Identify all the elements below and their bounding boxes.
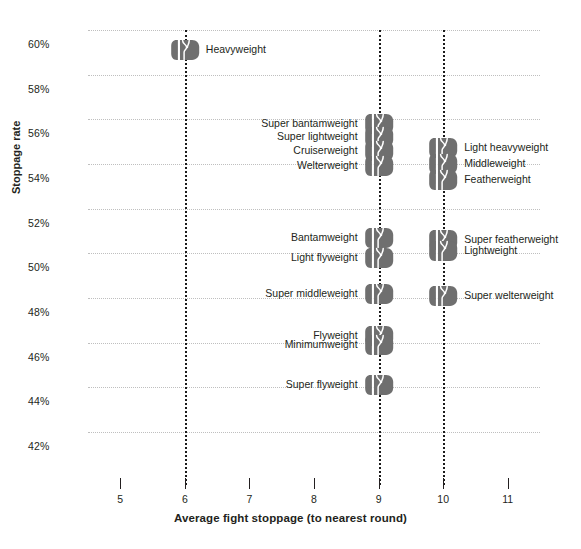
data-point-label: Lightweight xyxy=(464,244,517,257)
x-axis-tick xyxy=(508,478,509,489)
plot-area: HeavyweightSuper bantamweightSuper light… xyxy=(88,30,540,432)
x-axis-title: Average fight stoppage (to nearest round… xyxy=(0,512,581,524)
boxing-glove-icon xyxy=(168,38,202,62)
x-axis-tick xyxy=(443,478,444,489)
y-axis-tick-labels: 60%58%56%54%52%50%48%46%44%42% xyxy=(44,30,88,432)
data-point-label: Super flyweight xyxy=(286,378,358,391)
boxing-glove-icon xyxy=(362,246,396,270)
y-axis-tick-label: 56% xyxy=(28,127,88,139)
data-point-label: Heavyweight xyxy=(206,43,266,56)
gridline xyxy=(88,30,540,31)
y-axis-tick-label: 50% xyxy=(28,261,88,273)
y-axis-tick-label: 54% xyxy=(28,172,88,184)
data-point-label: Super lightweight xyxy=(277,130,358,143)
data-point-label: Light heavyweight xyxy=(464,141,548,154)
boxing-glove-icon xyxy=(362,282,396,306)
scatter-chart: Stoppage rate 60%58%56%54%52%50%48%46%44… xyxy=(0,0,581,549)
data-point-label: Super welterweight xyxy=(464,289,553,302)
data-point-label: Light flyweight xyxy=(291,251,358,264)
gridline xyxy=(88,432,540,433)
boxing-glove-icon xyxy=(426,168,460,192)
x-axis-tick xyxy=(185,478,186,489)
x-axis-tick-label: 11 xyxy=(488,493,528,505)
data-point-label: Super middleweight xyxy=(265,287,357,300)
y-axis-tick-label: 52% xyxy=(28,217,88,229)
x-axis-tick-label: 10 xyxy=(423,493,463,505)
boxing-glove-icon xyxy=(426,239,460,263)
x-axis-tick-label: 8 xyxy=(294,493,334,505)
data-point-label: Middleweight xyxy=(464,157,525,170)
y-axis-title: Stoppage rate xyxy=(10,178,22,194)
gridline xyxy=(88,209,540,210)
y-axis-tick-label: 48% xyxy=(28,306,88,318)
y-axis-tick-label: 44% xyxy=(28,395,88,407)
boxing-glove-icon xyxy=(362,154,396,178)
data-point-label: Welterweight xyxy=(297,159,358,172)
y-axis-tick-label: 58% xyxy=(28,83,88,95)
data-point-label: Super bantamweight xyxy=(261,117,357,130)
x-axis-tick xyxy=(379,478,380,489)
y-axis-tick-label: 46% xyxy=(28,351,88,363)
boxing-glove-icon xyxy=(426,284,460,308)
y-axis-tick-label: 42% xyxy=(28,440,88,452)
data-point-label: Featherweight xyxy=(464,173,531,186)
data-point-label: Minimumweight xyxy=(285,338,358,351)
data-point-label: Bantamweight xyxy=(291,231,358,244)
x-axis-tick xyxy=(314,478,315,489)
boxing-glove-icon xyxy=(362,373,396,397)
x-axis-tick-label: 5 xyxy=(100,493,140,505)
x-axis-tick xyxy=(120,478,121,489)
x-axis-tick xyxy=(249,478,250,489)
boxing-glove-icon xyxy=(362,333,396,357)
x-axis-tick-label: 9 xyxy=(359,493,399,505)
x-axis-tick-label: 6 xyxy=(165,493,205,505)
gridline xyxy=(88,75,540,76)
y-axis-tick-label: 60% xyxy=(28,38,88,50)
vertical-guideline xyxy=(185,30,187,485)
data-point-label: Cruiserweight xyxy=(293,144,357,157)
x-axis-tick-label: 7 xyxy=(229,493,269,505)
